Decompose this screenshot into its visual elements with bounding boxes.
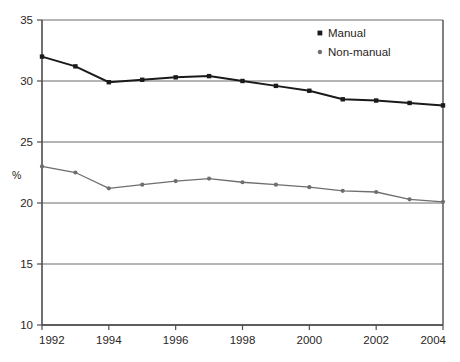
data-point-marker xyxy=(240,79,244,83)
data-point-marker xyxy=(207,74,211,78)
data-point-marker xyxy=(341,189,345,193)
y-tick-label: 35 xyxy=(20,14,33,26)
x-tick-label: 2002 xyxy=(363,334,389,346)
data-point-marker xyxy=(441,200,445,204)
y-tick-labels-group: 353025201510 xyxy=(20,14,33,331)
x-tick-marks-group xyxy=(42,325,443,330)
data-point-marker xyxy=(307,89,311,93)
series-non-manual xyxy=(40,164,445,204)
data-point-marker xyxy=(173,75,177,79)
data-point-marker xyxy=(140,183,144,187)
x-tick-label: 2000 xyxy=(297,334,323,346)
data-point-marker xyxy=(174,179,178,183)
data-point-marker xyxy=(407,101,411,105)
data-point-marker xyxy=(107,186,111,190)
data-point-marker xyxy=(107,80,111,84)
x-tick-label: 1998 xyxy=(230,334,256,346)
data-point-marker xyxy=(307,185,311,189)
data-point-marker xyxy=(274,84,278,88)
data-point-marker xyxy=(374,190,378,194)
x-tick-label: 1996 xyxy=(163,334,189,346)
x-tick-label: 1994 xyxy=(96,334,122,346)
y-axis-title: % xyxy=(12,169,21,181)
line-chart: 353025201510 199219941996199820002002200… xyxy=(0,0,460,362)
legend-marker-manual xyxy=(318,31,323,36)
x-tick-label: 2004 xyxy=(420,334,446,346)
data-point-marker xyxy=(40,164,44,168)
y-tick-label: 15 xyxy=(20,258,33,270)
chart-canvas: 353025201510 199219941996199820002002200… xyxy=(0,0,460,362)
data-point-marker xyxy=(207,177,211,181)
data-point-marker xyxy=(73,64,77,68)
gridlines-group xyxy=(42,20,443,325)
data-point-marker xyxy=(140,78,144,82)
y-tick-label: 10 xyxy=(20,319,33,331)
data-point-marker xyxy=(40,54,44,58)
y-tick-label: 30 xyxy=(20,75,33,87)
y-tick-label: 25 xyxy=(20,136,33,148)
data-point-marker xyxy=(407,197,411,201)
y-tick-label: 20 xyxy=(20,197,33,209)
legend-marker-non-manual xyxy=(318,50,322,54)
legend: ManualNon-manual xyxy=(318,27,391,58)
legend-label: Non-manual xyxy=(328,46,391,58)
data-point-marker xyxy=(240,180,244,184)
data-point-marker xyxy=(341,97,345,101)
data-point-marker xyxy=(374,98,378,102)
data-point-marker xyxy=(441,103,445,107)
legend-label: Manual xyxy=(328,27,366,39)
x-axis-line-group xyxy=(42,20,443,325)
data-point-marker xyxy=(274,183,278,187)
data-point-marker xyxy=(73,170,77,174)
x-tick-labels-group: 1992199419961998200020022004 xyxy=(39,334,447,346)
x-tick-label: 1992 xyxy=(39,334,65,346)
